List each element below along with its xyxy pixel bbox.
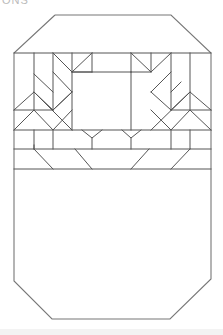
right-lower-v [151, 110, 211, 130]
right-diag-c [171, 82, 181, 92]
row3-diag-1 [34, 149, 53, 169]
pattern-band [14, 53, 211, 169]
row3-diag-2 [75, 149, 92, 169]
right-diag-b [151, 92, 171, 110]
left-diag-a [34, 74, 53, 92]
right-peak [171, 92, 211, 110]
tile-diagram [0, 0, 223, 335]
left-lower-v [14, 110, 72, 130]
right-diag-a [151, 72, 171, 92]
left-diag-c [53, 72, 72, 92]
y-shape-right [122, 130, 141, 138]
bottom-strip [0, 329, 223, 335]
outer-octagon [14, 15, 211, 319]
y-shape-left [82, 130, 102, 138]
row3-diag-3 [131, 149, 149, 169]
row3-diag-4 [171, 149, 190, 169]
left-lower-diag-2 [53, 92, 72, 110]
